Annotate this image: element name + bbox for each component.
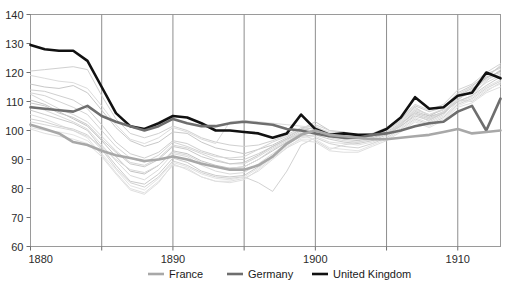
x-tick-label-1910: 1910 <box>446 253 470 265</box>
y-tick-label-110: 110 <box>6 96 24 108</box>
legend-label-2: United Kingdom <box>333 268 411 280</box>
chart-canvas: 14013012011010090807060 1880189019001910… <box>0 0 514 290</box>
y-tick-label-140: 140 <box>5 9 23 21</box>
legend-label-1: Germany <box>248 268 294 280</box>
legend-label-0: France <box>169 268 203 280</box>
y-tick-label-60: 60 <box>11 241 23 253</box>
x-tick-label-1900: 1900 <box>303 253 327 265</box>
chart-legend: FranceGermanyUnited Kingdom <box>148 268 411 280</box>
y-tick-label-70: 70 <box>11 212 23 224</box>
y-tick-label-130: 130 <box>5 38 23 50</box>
x-tick-label-1880: 1880 <box>29 253 53 265</box>
y-tick-label-100: 100 <box>5 125 23 137</box>
x-tick-label-1890: 1890 <box>161 253 185 265</box>
y-tick-label-120: 120 <box>5 67 23 79</box>
y-tick-label-90: 90 <box>11 154 23 166</box>
y-tick-label-80: 80 <box>11 183 23 195</box>
line-chart-figure: 14013012011010090807060 1880189019001910… <box>0 0 514 290</box>
